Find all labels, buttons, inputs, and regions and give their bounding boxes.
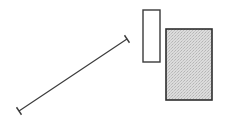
segment-end-tick	[125, 35, 130, 42]
diagram-canvas	[0, 0, 225, 122]
segment-line	[19, 39, 127, 111]
shaded-rectangle	[166, 29, 212, 100]
outline-rectangle	[143, 10, 160, 62]
segment-start-tick	[17, 107, 22, 114]
line-segment	[17, 35, 130, 114]
